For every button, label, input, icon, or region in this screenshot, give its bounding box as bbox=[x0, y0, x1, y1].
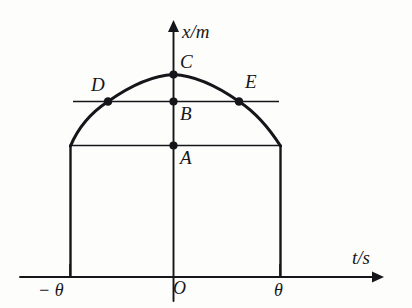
x-axis-arrowhead bbox=[372, 272, 384, 283]
x-axis-label: t/s bbox=[352, 248, 370, 267]
x-axis-label-text: t/s bbox=[352, 247, 370, 268]
point-B-marker bbox=[169, 97, 177, 105]
point-label-B: B bbox=[180, 104, 192, 123]
point-label-C: C bbox=[180, 52, 193, 71]
x-axis bbox=[20, 272, 384, 283]
tick-label-negative-theta: − θ bbox=[38, 281, 64, 299]
origin-label: O bbox=[173, 279, 186, 297]
rectangle-region bbox=[69, 146, 282, 278]
y-axis bbox=[168, 20, 179, 301]
y-axis-label: x/m bbox=[182, 22, 209, 41]
point-label-E: E bbox=[245, 72, 257, 91]
point-D-marker bbox=[104, 97, 113, 106]
point-label-A: A bbox=[180, 148, 192, 167]
x-t-graph-figure: x/m t/s C B A D E − θ θ O bbox=[0, 0, 412, 308]
graph-canvas bbox=[0, 0, 412, 308]
point-A-marker bbox=[169, 141, 177, 149]
point-C-marker bbox=[169, 70, 177, 78]
x-axis-ticks bbox=[70, 264, 280, 277]
y-axis-arrowhead bbox=[168, 20, 179, 32]
point-label-D: D bbox=[91, 75, 105, 94]
y-axis-label-text: x/m bbox=[182, 21, 209, 42]
tick-label-positive-theta: θ bbox=[274, 281, 283, 299]
point-E-marker bbox=[235, 97, 244, 106]
